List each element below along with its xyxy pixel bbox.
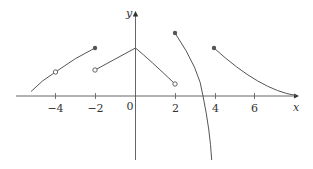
tick-label: −4	[47, 102, 63, 115]
closed-point	[93, 46, 97, 50]
open-point	[173, 82, 177, 86]
closed-point	[212, 46, 216, 50]
origin-label: 0	[127, 100, 134, 113]
tick-label: 4	[212, 102, 219, 115]
open-point	[53, 70, 57, 74]
closed-point	[173, 31, 177, 35]
curve-piece-1	[31, 48, 95, 92]
curve-piece-2	[95, 48, 136, 70]
curve-piece-4	[175, 33, 212, 160]
y-axis-label: y	[125, 7, 133, 20]
tick-label: 2	[172, 102, 179, 115]
curve-piece-5	[214, 48, 296, 96]
x-axis-label: x	[293, 101, 300, 114]
tick-label: 6	[251, 102, 258, 115]
function-graph: −4 −2 0 2 4 6 x y	[0, 0, 313, 169]
tick-label: −2	[87, 102, 103, 115]
curve-piece-3	[136, 48, 176, 84]
open-point	[93, 68, 97, 72]
